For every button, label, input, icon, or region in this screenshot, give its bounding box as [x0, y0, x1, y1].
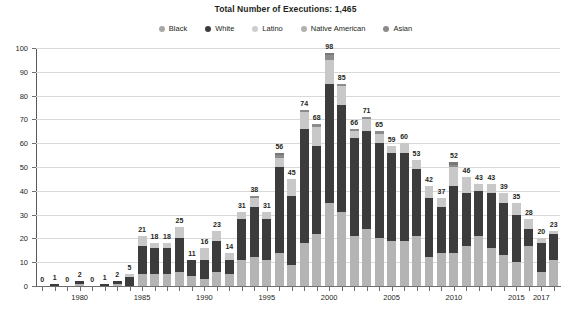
bar-1987[interactable]	[163, 243, 172, 286]
bar-segment-black	[200, 279, 209, 286]
x-axis-tick-label: 2010	[446, 293, 463, 302]
bar-2008[interactable]	[425, 186, 434, 286]
bar-segment-black	[337, 212, 346, 286]
x-axis-tick-mark	[404, 287, 405, 291]
x-axis-tick-mark	[317, 287, 318, 291]
x-axis-tick-mark	[429, 287, 430, 291]
legend-item-latino[interactable]: Latino	[252, 24, 282, 33]
bar-segment-black	[187, 276, 196, 286]
bar-segment-white	[375, 143, 384, 238]
bar-segment-white	[212, 241, 221, 272]
bar-value-label: 0	[90, 276, 94, 283]
bar-1986[interactable]	[150, 243, 159, 286]
gridline	[36, 96, 560, 97]
y-axis-tick-label: 60	[2, 139, 28, 148]
bar-1984[interactable]	[125, 274, 134, 286]
bar-segment-latino	[325, 60, 334, 84]
bar-2018[interactable]	[549, 231, 558, 286]
legend-item-black[interactable]: Black	[159, 24, 187, 33]
bar-segment-black	[275, 253, 284, 286]
bar-segment-white	[487, 193, 496, 248]
bar-segment-black	[175, 272, 184, 286]
bar-2006[interactable]	[400, 143, 409, 286]
x-axis-tick-mark	[55, 287, 56, 291]
bar-2004[interactable]	[375, 131, 384, 286]
bar-value-label: 43	[487, 174, 495, 181]
bar-2001[interactable]	[337, 84, 346, 286]
bar-2017[interactable]	[537, 238, 546, 286]
bar-2014[interactable]	[499, 193, 508, 286]
bar-2007[interactable]	[412, 160, 421, 286]
bar-1996[interactable]	[275, 153, 284, 286]
bar-value-label: 5	[128, 264, 132, 271]
bar-value-label: 2	[78, 271, 82, 278]
bar-1980[interactable]	[75, 281, 84, 286]
bar-2003[interactable]	[362, 117, 371, 286]
bar-value-label: 2	[115, 271, 119, 278]
bar-value-label: 18	[151, 233, 159, 240]
y-axis-tick-label: 10	[2, 258, 28, 267]
bar-segment-black	[350, 236, 359, 286]
legend-item-asian[interactable]: Asian	[383, 24, 412, 33]
bar-segment-white	[499, 203, 508, 255]
bar-1993[interactable]	[237, 212, 246, 286]
x-axis-tick-mark	[504, 287, 505, 291]
bar-segment-latino	[512, 203, 521, 215]
bar-segment-black	[237, 260, 246, 286]
bar-2002[interactable]	[350, 129, 359, 286]
bar-1990[interactable]	[200, 248, 209, 286]
chart-legend: BlackWhiteLatinoNative AmericanAsian	[0, 24, 571, 33]
bar-segment-black	[225, 274, 234, 286]
bar-2010[interactable]	[449, 162, 458, 286]
bar-2011[interactable]	[462, 177, 471, 286]
bar-2009[interactable]	[437, 198, 446, 286]
bar-1995[interactable]	[262, 212, 271, 286]
bar-1982[interactable]	[100, 284, 109, 286]
bar-segment-latino	[212, 231, 221, 241]
legend-label: Native American	[311, 24, 366, 33]
bar-segment-latino	[524, 219, 533, 229]
bar-2005[interactable]	[387, 146, 396, 286]
bar-segment-black	[524, 246, 533, 286]
gridline	[36, 119, 560, 120]
x-axis-tick-mark	[254, 287, 255, 291]
bar-segment-white	[237, 219, 246, 259]
x-axis-tick-mark	[554, 287, 555, 291]
bar-segment-black	[287, 265, 296, 286]
bar-segment-black	[375, 238, 384, 286]
bar-1999[interactable]	[312, 124, 321, 286]
bar-2016[interactable]	[524, 219, 533, 286]
bar-value-label: 14	[225, 243, 233, 250]
bar-segment-latino	[499, 193, 508, 203]
bar-2013[interactable]	[487, 184, 496, 286]
bar-2000[interactable]	[325, 53, 334, 286]
bar-2012[interactable]	[474, 184, 483, 286]
bar-1985[interactable]	[138, 236, 147, 286]
bar-1997[interactable]	[287, 179, 296, 286]
x-axis-tick-mark	[479, 287, 480, 291]
bar-segment-black	[537, 272, 546, 286]
bar-1978[interactable]	[50, 284, 59, 286]
bar-segment-white	[275, 167, 284, 253]
bar-1988[interactable]	[175, 227, 184, 287]
bar-1991[interactable]	[212, 231, 221, 286]
gridline	[36, 48, 560, 49]
y-axis-tick-label: 80	[2, 91, 28, 100]
legend-item-white[interactable]: White	[205, 24, 234, 33]
bar-value-label: 18	[163, 233, 171, 240]
bar-segment-white	[287, 196, 296, 265]
bar-2015[interactable]	[512, 203, 521, 286]
bar-value-label: 52	[450, 152, 458, 159]
bar-segment-latino	[250, 198, 259, 208]
bar-segment-white	[462, 193, 471, 245]
bar-1992[interactable]	[225, 253, 234, 286]
bar-1989[interactable]	[187, 260, 196, 286]
bar-1994[interactable]	[250, 196, 259, 286]
bar-1998[interactable]	[300, 110, 309, 286]
bar-value-label: 71	[363, 107, 371, 114]
bar-segment-latino	[350, 131, 359, 138]
x-axis-tick-mark	[229, 287, 230, 291]
bar-1983[interactable]	[113, 281, 122, 286]
legend-item-native-american[interactable]: Native American	[301, 24, 366, 33]
bar-segment-latino	[425, 186, 434, 198]
